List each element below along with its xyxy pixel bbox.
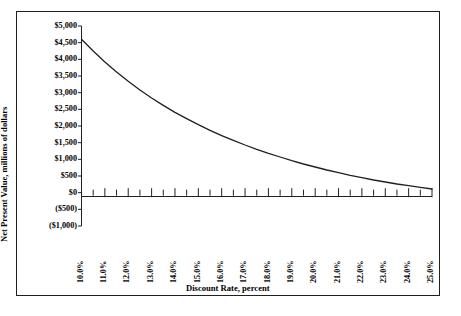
x-axis-tick-label: 25.0% [426,260,435,283]
y-axis-ticks [78,26,82,226]
y-axis-tick-label: $4,000 [19,54,77,63]
npv-chart-figure: $5,000$4,500$4,000$3,500$3,000$2,500$2,0… [0,0,461,316]
x-axis-tick-label: 19.0% [286,260,295,283]
x-axis-ticks [82,188,433,197]
y-axis-tick-label: $0 [19,188,77,197]
x-axis-tick-label: 10.0% [76,260,85,283]
y-axis-tick-label: $1,000 [19,154,77,163]
x-axis-title: Discount Rate, percent [186,283,270,293]
y-axis-tick-label: ($500) [19,204,77,213]
x-axis-tick-label: 21.0% [333,260,342,283]
y-axis-tick-label: $4,500 [19,38,77,47]
x-axis-tick-label: 12.0% [122,260,131,283]
y-axis-tick-label: $2,500 [19,104,77,113]
x-axis-tick-label: 16.0% [216,260,225,283]
y-axis-tick-label: $5,000 [19,21,77,30]
x-axis-tick-label: 22.0% [356,260,365,283]
y-axis-tick-label: $1,500 [19,138,77,147]
y-axis-tick-label: $3,500 [19,71,77,80]
x-axis-tick-label: 24.0% [403,260,412,283]
y-axis-tick-label: $2,000 [19,121,77,130]
x-axis-tick-label: 18.0% [263,260,272,283]
x-axis-tick-label: 17.0% [239,260,248,283]
x-axis-tick-label: 11.0% [99,261,108,283]
npv-curve-line [82,39,433,189]
y-axis-tick-label: $500 [19,171,77,180]
x-axis-tick-label: 13.0% [146,260,155,283]
x-axis-tick-label: 23.0% [379,260,388,283]
x-axis-tick-label: 20.0% [309,260,318,283]
y-axis-tick-label: $3,000 [19,88,77,97]
y-axis-tick-label: ($1,000) [19,221,77,230]
y-axis-title: Net Present Value, millions of dollars [0,107,9,242]
x-axis-tick-label: 15.0% [193,260,202,283]
x-axis-tick-label: 14.0% [169,260,178,283]
